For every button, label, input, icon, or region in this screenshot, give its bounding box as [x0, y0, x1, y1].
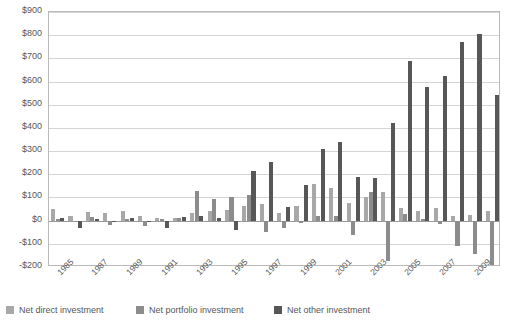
- bar: [108, 221, 112, 226]
- bar: [182, 217, 186, 220]
- bar: [304, 185, 308, 221]
- bar-group: [68, 12, 81, 265]
- bar: [443, 76, 447, 221]
- bar-group: [399, 12, 412, 265]
- bar-group: [103, 12, 116, 265]
- bar-group: [173, 12, 186, 265]
- bar: [455, 221, 459, 247]
- bar: [286, 207, 290, 221]
- gridline: [49, 197, 499, 198]
- bar: [138, 216, 142, 221]
- bar: [316, 216, 320, 220]
- bar: [56, 219, 60, 220]
- y-axis-tick-label: -$200: [0, 260, 42, 270]
- legend-label: Net other investment: [287, 305, 370, 315]
- bar: [86, 212, 90, 221]
- gridline: [49, 12, 499, 13]
- bar: [338, 142, 342, 221]
- bar: [212, 199, 216, 221]
- legend-item: Net portfolio investment: [136, 305, 244, 315]
- bar: [190, 213, 194, 221]
- bar: [434, 208, 438, 221]
- bar: [403, 214, 407, 221]
- bar-group: [468, 12, 481, 265]
- bar: [60, 218, 64, 221]
- bar: [251, 171, 255, 221]
- bar: [373, 178, 377, 221]
- bar: [299, 221, 303, 224]
- plot-area: [48, 11, 500, 266]
- y-axis-tick-label: -$100: [0, 237, 42, 247]
- zero-line: [49, 221, 499, 222]
- bar: [234, 221, 238, 230]
- bar-group: [51, 12, 64, 265]
- gridline: [49, 128, 499, 129]
- bar: [486, 211, 490, 220]
- bar-group: [260, 12, 273, 265]
- bar: [68, 216, 72, 221]
- bar: [329, 188, 333, 220]
- bar-group: [312, 12, 325, 265]
- bar: [208, 211, 212, 220]
- bar: [312, 184, 316, 221]
- bar-group: [277, 12, 290, 265]
- bar: [269, 162, 273, 221]
- bar: [121, 211, 125, 220]
- bar-group: [138, 12, 151, 265]
- bar: [351, 221, 355, 235]
- gridline: [49, 82, 499, 83]
- bar-group: [208, 12, 221, 265]
- bar: [416, 211, 420, 220]
- bar: [112, 221, 116, 223]
- bar: [130, 218, 134, 220]
- bar: [381, 192, 385, 221]
- x-axis: 1985198719891991199319951997199920012003…: [48, 268, 500, 306]
- y-axis-tick-label: $0: [0, 214, 42, 224]
- legend-swatch-icon: [6, 306, 14, 314]
- bar-chart: $900$800$700$600$500$400$300$200$100$0-$…: [0, 0, 508, 324]
- bar: [294, 206, 298, 221]
- bar: [177, 218, 181, 220]
- legend-item: Net other investment: [274, 305, 370, 315]
- bar: [51, 209, 55, 221]
- bar: [425, 87, 429, 220]
- bar: [364, 197, 368, 220]
- bar: [473, 221, 477, 255]
- bar: [356, 177, 360, 221]
- gridline: [49, 35, 499, 36]
- bar: [408, 61, 412, 221]
- bar: [321, 149, 325, 221]
- bar-group: [121, 12, 134, 265]
- legend-label: Net portfolio investment: [149, 305, 244, 315]
- y-axis: $900$800$700$600$500$400$300$200$100$0-$…: [0, 0, 44, 324]
- bar: [247, 195, 251, 221]
- bar-group: [329, 12, 342, 265]
- y-axis-tick-label: $100: [0, 190, 42, 200]
- bar-group: [242, 12, 255, 265]
- bar: [195, 191, 199, 221]
- gridline: [49, 58, 499, 59]
- bar: [229, 197, 233, 220]
- bar: [477, 34, 481, 221]
- bar: [334, 216, 338, 221]
- bar: [264, 221, 268, 232]
- y-axis-tick-label: $700: [0, 51, 42, 61]
- bar-group: [416, 12, 429, 265]
- bar-group: [364, 12, 377, 265]
- bar: [103, 213, 107, 221]
- bar: [386, 221, 390, 262]
- bar: [125, 219, 129, 221]
- y-axis-tick-label: $900: [0, 5, 42, 15]
- bar: [421, 219, 425, 220]
- gridline: [49, 105, 499, 106]
- bar: [242, 206, 246, 220]
- bar: [155, 218, 159, 220]
- bar-group: [486, 12, 499, 265]
- y-axis-tick-label: $300: [0, 144, 42, 154]
- legend-label: Net direct investment: [19, 305, 104, 315]
- bar-group: [347, 12, 360, 265]
- bar: [399, 208, 403, 221]
- y-axis-tick-label: $200: [0, 167, 42, 177]
- y-axis-tick-label: $400: [0, 121, 42, 131]
- chart-legend: Net direct investmentNet portfolio inves…: [6, 305, 506, 321]
